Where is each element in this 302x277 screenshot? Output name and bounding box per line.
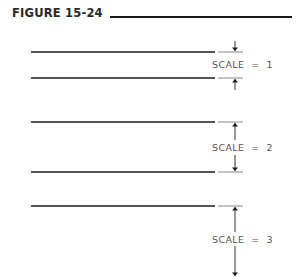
dimension-scale-2: SCALE = 2 <box>31 122 273 172</box>
dimension-scale-1: SCALE = 1 <box>31 41 273 90</box>
scale-label-3: SCALE = 3 <box>212 234 273 245</box>
dimension-scale-diagram: SCALE = 1 SCALE = 2 SCALE = 3 <box>0 0 302 277</box>
scale-label-1: SCALE = 1 <box>212 59 273 70</box>
scale-label-2: SCALE = 2 <box>212 142 273 153</box>
dimension-scale-3: SCALE = 3 <box>31 206 273 276</box>
